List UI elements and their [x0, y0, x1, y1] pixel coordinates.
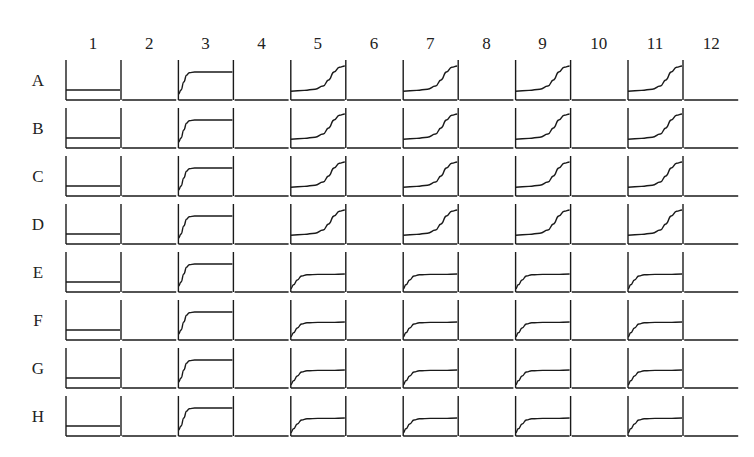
growth-curve	[178, 408, 232, 430]
growth-curve	[516, 418, 570, 433]
well-G9	[516, 348, 571, 388]
well-F1	[66, 300, 121, 340]
well-G7	[403, 348, 458, 388]
well-D1	[66, 204, 121, 244]
well-E1	[66, 252, 121, 292]
well-G3	[178, 348, 233, 388]
well-C5	[291, 156, 346, 196]
column-label: 5	[314, 34, 323, 53]
growth-curve	[403, 418, 457, 433]
well-B1	[66, 108, 121, 148]
row-label: H	[32, 407, 44, 426]
row-label: D	[32, 215, 44, 234]
well-C7	[403, 156, 458, 196]
well-B5	[291, 108, 346, 148]
well-H1	[66, 396, 121, 436]
growth-curve	[516, 274, 570, 289]
growth-curve	[628, 322, 682, 337]
well-A5	[291, 60, 346, 100]
growth-curve	[178, 216, 232, 238]
well-H11	[628, 396, 683, 436]
well-H5	[291, 396, 346, 436]
growth-curve	[178, 120, 232, 142]
column-label: 12	[703, 34, 720, 53]
growth-curve	[178, 168, 232, 190]
well-A1	[66, 60, 121, 100]
well-C1	[66, 156, 121, 196]
row-labels: ABCDEFGH	[32, 71, 45, 426]
row-label: E	[33, 263, 43, 282]
well-H7	[403, 396, 458, 436]
well-E3	[178, 252, 233, 292]
growth-curve	[291, 66, 345, 91]
well-E9	[516, 252, 571, 292]
growth-curve	[291, 210, 345, 235]
well-B9	[516, 108, 571, 148]
growth-curve	[178, 72, 232, 94]
growth-curve	[178, 264, 232, 286]
column-label: 2	[145, 34, 154, 53]
well-C11	[628, 156, 683, 196]
growth-curve	[403, 370, 457, 385]
growth-curve	[516, 162, 570, 187]
growth-curve	[403, 322, 457, 337]
growth-curve	[516, 66, 570, 91]
row-label: B	[32, 119, 43, 138]
column-label: 8	[482, 34, 491, 53]
wells-grid	[66, 60, 738, 436]
growth-curve	[403, 162, 457, 187]
column-labels: 123456789101112	[89, 34, 720, 53]
well-H9	[516, 396, 571, 436]
column-label: 7	[426, 34, 435, 53]
row-label: F	[33, 311, 42, 330]
well-D7	[403, 204, 458, 244]
well-A11	[628, 60, 683, 100]
well-F5	[291, 300, 346, 340]
growth-curve	[628, 418, 682, 433]
well-B7	[403, 108, 458, 148]
column-label: 1	[89, 34, 98, 53]
growth-curve	[178, 312, 232, 334]
growth-curve	[403, 274, 457, 289]
well-E11	[628, 252, 683, 292]
well-D3	[178, 204, 233, 244]
well-F9	[516, 300, 571, 340]
growth-curve	[291, 418, 345, 433]
well-F11	[628, 300, 683, 340]
well-A7	[403, 60, 458, 100]
growth-curve	[628, 370, 682, 385]
column-label: 9	[538, 34, 547, 53]
column-label: 10	[590, 34, 607, 53]
well-G1	[66, 348, 121, 388]
growth-curve	[516, 322, 570, 337]
row-label: G	[32, 359, 44, 378]
column-label: 4	[257, 34, 266, 53]
growth-curve	[516, 370, 570, 385]
growth-curve	[403, 210, 457, 235]
column-label: 11	[647, 34, 663, 53]
growth-curve	[516, 210, 570, 235]
growth-curve	[291, 370, 345, 385]
well-A3	[178, 60, 233, 100]
growth-curve	[516, 114, 570, 139]
well-D5	[291, 204, 346, 244]
column-label: 6	[370, 34, 379, 53]
well-plate-chart: 123456789101112 ABCDEFGH	[0, 0, 754, 457]
well-H3	[178, 396, 233, 436]
well-C9	[516, 156, 571, 196]
well-E5	[291, 252, 346, 292]
growth-curve	[178, 360, 232, 382]
growth-curve	[628, 210, 682, 235]
well-D9	[516, 204, 571, 244]
growth-curve	[291, 114, 345, 139]
growth-curve	[628, 274, 682, 289]
column-label: 3	[201, 34, 210, 53]
well-C3	[178, 156, 233, 196]
well-F3	[178, 300, 233, 340]
well-A9	[516, 60, 571, 100]
well-G11	[628, 348, 683, 388]
well-B3	[178, 108, 233, 148]
row-label: A	[32, 71, 45, 90]
well-D11	[628, 204, 683, 244]
well-F7	[403, 300, 458, 340]
